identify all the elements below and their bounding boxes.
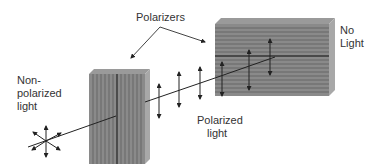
non-polarized-label-line1: Non-	[17, 74, 41, 87]
non-polarized-label-line3: light	[17, 100, 37, 113]
polarized-label-line1: Polarized	[197, 114, 243, 127]
polarized-label-line2: light	[207, 127, 227, 140]
no-light-label-line2: Light	[340, 37, 364, 50]
polarization-diagram: Polarizers Non- polarized light Polarize…	[0, 0, 379, 166]
diagram-graphics	[0, 0, 379, 166]
polarizers-label: Polarizers	[136, 11, 185, 24]
first-polarizer	[89, 69, 150, 164]
no-light-label-line1: No	[340, 24, 354, 37]
polarizers-pointer-arrows	[131, 27, 205, 58]
non-polarized-label-line2: polarized	[17, 87, 62, 100]
non-polarized-light-icon	[32, 126, 61, 157]
